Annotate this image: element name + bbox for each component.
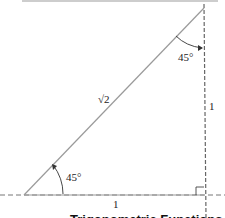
top-angle-arrowhead [198, 45, 203, 51]
hypotenuse-label: √2 [98, 94, 110, 105]
triangle-diagram [0, 0, 225, 218]
caption-truncated: Trigonometric Functions [70, 213, 222, 218]
top-angle-label: 45° [178, 52, 193, 63]
bottom-leg-label: 1 [113, 199, 119, 210]
right-leg-label: 1 [209, 101, 215, 112]
bottom-angle-label: 45° [66, 172, 81, 183]
hypotenuse [24, 8, 204, 195]
vertical-dashed-line [204, 4, 206, 218]
bottom-angle-arc [53, 165, 63, 194]
right-angle-marker [196, 187, 204, 195]
